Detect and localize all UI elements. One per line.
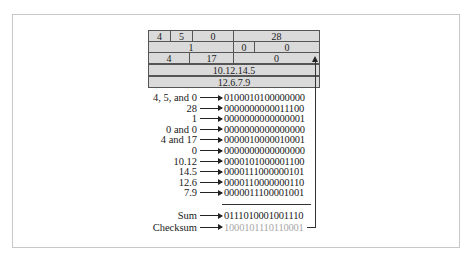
calc-label: 4 and 17 bbox=[161, 134, 197, 145]
calc-binary: 0000101000001100 bbox=[224, 156, 304, 167]
sum-binary: 0111010001001110 bbox=[224, 210, 303, 221]
calc-line: 28 0000000000011100 bbox=[0, 103, 469, 114]
calc-line: 14.5 0000111000000101 bbox=[0, 166, 469, 177]
checksum-label: Checksum bbox=[153, 222, 197, 233]
calc-label: 0 and 0 bbox=[166, 124, 197, 135]
calc-label: 1 bbox=[192, 113, 197, 124]
checksum-line: Checksum 1000101110110001 bbox=[0, 222, 469, 233]
calc-binary: 0000000000011100 bbox=[224, 103, 304, 114]
right-arrow-icon bbox=[200, 227, 222, 228]
checksum-binary: 1000101110110001 bbox=[224, 222, 304, 233]
calc-label: 28 bbox=[187, 103, 198, 114]
calc-line: 12.6 0000110000000110 bbox=[0, 177, 469, 188]
calc-label: 10.12 bbox=[173, 156, 197, 167]
calc-line: 7.9 0000011100001001 bbox=[0, 187, 469, 198]
calc-label: 4, 5, and 0 bbox=[153, 92, 197, 103]
right-arrow-icon bbox=[200, 118, 222, 119]
right-arrow-icon bbox=[200, 150, 222, 151]
right-arrow-icon bbox=[200, 139, 222, 140]
calc-line: 4, 5, and 0 0100010100000000 bbox=[0, 92, 469, 103]
calc-label: 14.5 bbox=[179, 166, 197, 177]
right-arrow-icon bbox=[200, 171, 222, 172]
calc-label: 12.6 bbox=[179, 177, 197, 188]
calc-binary: 0000010000010001 bbox=[224, 134, 305, 145]
calc-line: 0 and 0 0000000000000000 bbox=[0, 124, 469, 135]
sum-line: Sum 0111010001001110 bbox=[0, 210, 469, 221]
right-arrow-icon bbox=[200, 192, 222, 193]
right-arrow-icon bbox=[200, 215, 222, 216]
calc-binary: 0000011100001001 bbox=[224, 187, 304, 198]
calc-line: 10.12 0000101000001100 bbox=[0, 156, 469, 167]
calc-label: 0 bbox=[192, 145, 197, 156]
calc-binary: 0000111000000101 bbox=[224, 166, 304, 177]
right-arrow-icon bbox=[200, 97, 222, 98]
calc-binary: 0100010100000000 bbox=[224, 92, 305, 103]
calc-binary: 0000000000000001 bbox=[224, 113, 305, 124]
calc-label: 7.9 bbox=[184, 187, 197, 198]
calc-line: 0 0000000000000000 bbox=[0, 145, 469, 156]
calc-binary: 0000000000000000 bbox=[224, 124, 305, 135]
calc-binary: 0000110000000110 bbox=[224, 177, 304, 188]
checksum-calculation: 4, 5, and 0 0100010100000000 28 00000000… bbox=[0, 0, 469, 260]
right-arrow-icon bbox=[200, 108, 222, 109]
sum-divider bbox=[222, 204, 311, 205]
up-arrow-icon bbox=[312, 56, 318, 62]
right-arrow-icon bbox=[200, 161, 222, 162]
right-arrow-icon bbox=[200, 182, 222, 183]
calc-line: 1 0000000000000001 bbox=[0, 113, 469, 124]
right-arrow-icon bbox=[200, 129, 222, 130]
calc-binary: 0000000000000000 bbox=[224, 145, 305, 156]
sum-label: Sum bbox=[178, 210, 197, 221]
calc-line: 4 and 17 0000010000010001 bbox=[0, 134, 469, 145]
checksum-feedback-line bbox=[315, 60, 316, 228]
